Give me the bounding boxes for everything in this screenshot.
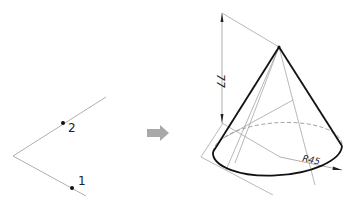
- height-dimension-label: 77: [214, 74, 227, 88]
- point-1-label: 1: [78, 174, 86, 188]
- bottom-extension-line: [222, 123, 280, 157]
- base-ellipse-hidden-edge: [213, 122, 342, 152]
- left-figure: 2 1: [13, 97, 106, 196]
- base-ellipse-visible-edge: [213, 146, 342, 176]
- cone-apex: [278, 46, 281, 49]
- top-extension-line: [222, 13, 279, 47]
- dimension-arrow-bottom: [221, 114, 224, 123]
- radius-dimension-label: R45: [302, 153, 322, 167]
- lower-line: [13, 156, 86, 196]
- upper-line: [13, 97, 106, 156]
- point-2-label: 2: [68, 121, 76, 135]
- cone-left-edge: [213, 47, 279, 152]
- cone-right-edge: [279, 47, 342, 146]
- right-arrow-icon: [147, 125, 169, 141]
- point-2: [61, 121, 65, 125]
- dimension-arrow-top: [221, 13, 224, 22]
- diagram-canvas: 2 1 77 R45: [0, 0, 358, 206]
- cone-figure: 77 R45: [201, 13, 342, 195]
- radius-arrow: [333, 167, 343, 171]
- point-1: [70, 186, 74, 190]
